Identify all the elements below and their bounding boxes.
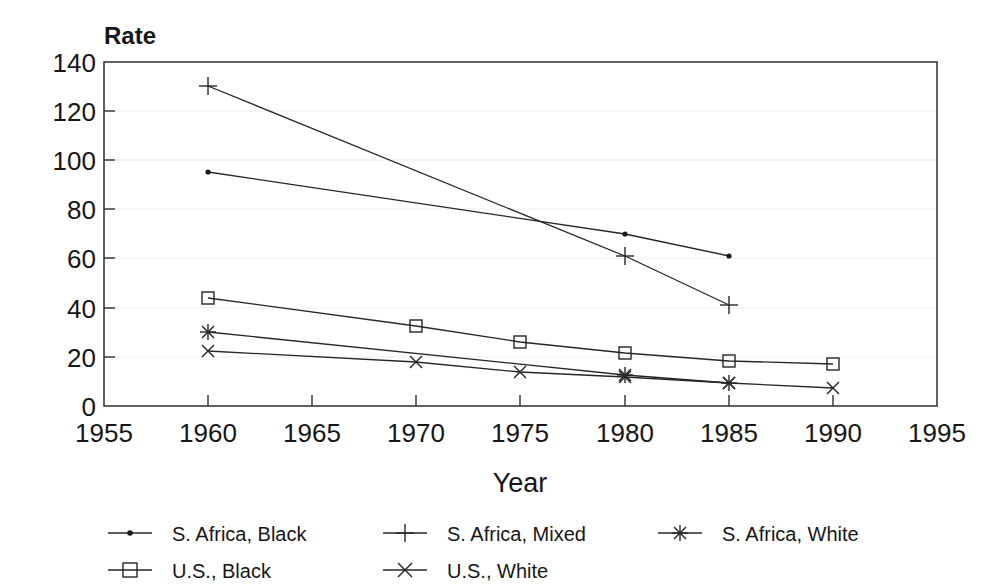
x-tick-label: 1975	[491, 418, 549, 448]
plus-marker-icon	[396, 524, 414, 542]
data-point	[200, 324, 216, 340]
y-tick-label: 100	[53, 146, 96, 176]
y-tick-label: 40	[67, 294, 96, 324]
dot-marker-icon	[127, 530, 133, 536]
series-s-africa-mixed	[199, 77, 738, 314]
x-tick-label: 1970	[387, 418, 445, 448]
y-tick-label: 80	[67, 195, 96, 225]
legend-item-s-africa-mixed[interactable]: S. Africa, Mixed	[383, 523, 586, 545]
x-axis-title: Year	[493, 468, 548, 498]
legend-item-us-white[interactable]: U.S., White	[383, 560, 548, 582]
chart-legend: S. Africa, Black S. Africa, Mixed	[108, 523, 859, 582]
legend-label: S. Africa, Mixed	[447, 523, 586, 545]
data-point	[720, 296, 738, 314]
chart-figure: 140 120 100 80 60 40 20 0 1955 1960 1965…	[0, 0, 1008, 586]
y-tick-label: 140	[53, 48, 96, 78]
x-tick-label: 1995	[908, 418, 966, 448]
series-s-africa-black	[205, 169, 731, 258]
data-point	[199, 77, 217, 95]
legend-label: S. Africa, Black	[172, 523, 307, 545]
x-tick-label: 1990	[804, 418, 862, 448]
y-axis-title: Rate	[104, 22, 156, 49]
y-tick-labels: 140 120 100 80 60 40 20 0	[53, 48, 96, 422]
legend-item-s-africa-black[interactable]: S. Africa, Black	[108, 523, 307, 545]
asterisk-marker-icon	[672, 525, 688, 541]
y-tick-label: 120	[53, 97, 96, 127]
data-point	[205, 169, 210, 174]
series-us-black	[202, 292, 839, 370]
x-tick-label: 1985	[700, 418, 758, 448]
x-tick-labels: 1955 1960 1965 1970 1975 1980 1985 1990 …	[75, 418, 966, 448]
x-tick-label: 1960	[179, 418, 237, 448]
data-point	[617, 367, 633, 383]
series-us-white	[202, 345, 839, 394]
data-point	[622, 231, 627, 236]
legend-item-s-africa-white[interactable]: S. Africa, White	[658, 523, 859, 545]
x-tick-label: 1955	[75, 418, 133, 448]
y-tick-label: 20	[67, 343, 96, 373]
x-tick-label: 1980	[596, 418, 654, 448]
series-line-s-africa-black	[208, 172, 729, 256]
line-chart: 140 120 100 80 60 40 20 0 1955 1960 1965…	[0, 0, 1008, 586]
legend-label: S. Africa, White	[722, 523, 859, 545]
legend-label: U.S., White	[447, 560, 548, 582]
x-axis-ticks	[208, 395, 833, 406]
gridlines	[104, 111, 937, 357]
data-point	[616, 247, 634, 265]
y-tick-label: 60	[67, 244, 96, 274]
series-line-s-africa-mixed	[208, 86, 729, 305]
data-point	[726, 253, 731, 258]
plot-area-border	[104, 62, 937, 406]
x-tick-label: 1965	[283, 418, 341, 448]
y-axis-ticks	[104, 111, 115, 357]
legend-label: U.S., Black	[172, 560, 272, 582]
legend-item-us-black[interactable]: U.S., Black	[108, 560, 272, 582]
